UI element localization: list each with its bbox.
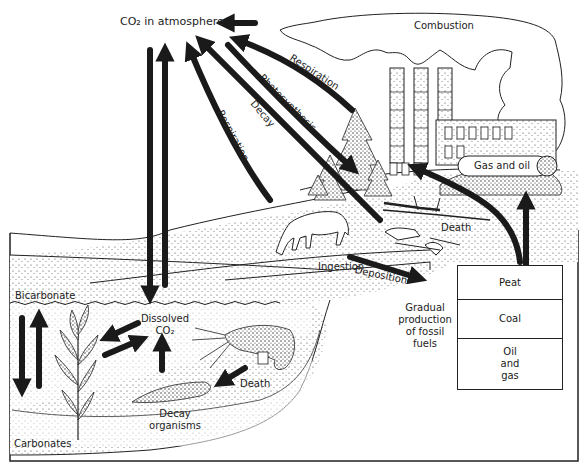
label-bicarbonate: Bicarbonate	[15, 290, 75, 302]
label-decay-organisms: Decay organisms	[145, 408, 205, 432]
label-gas-and-oil: Gas and oil	[474, 160, 530, 172]
carbon-cycle-diagram	[0, 0, 584, 472]
label-gradual-production: Gradual production of fossil fuels	[392, 302, 458, 350]
label-death-water: Death	[240, 378, 270, 390]
label-dissolved-co2: Dissolved CO₂	[140, 313, 190, 337]
label-carbonates: Carbonates	[14, 438, 71, 450]
layer-peat: Peat	[458, 266, 562, 300]
layer-coal: Coal	[458, 300, 562, 339]
layer-oil-and-gas: Oil and gas	[458, 339, 562, 389]
label-co2-atmosphere: CO₂ in atmosphere	[120, 16, 224, 28]
label-death-land: Death	[441, 222, 471, 234]
fossil-fuel-layers: Peat Coal Oil and gas	[457, 265, 563, 390]
label-combustion: Combustion	[414, 20, 474, 32]
